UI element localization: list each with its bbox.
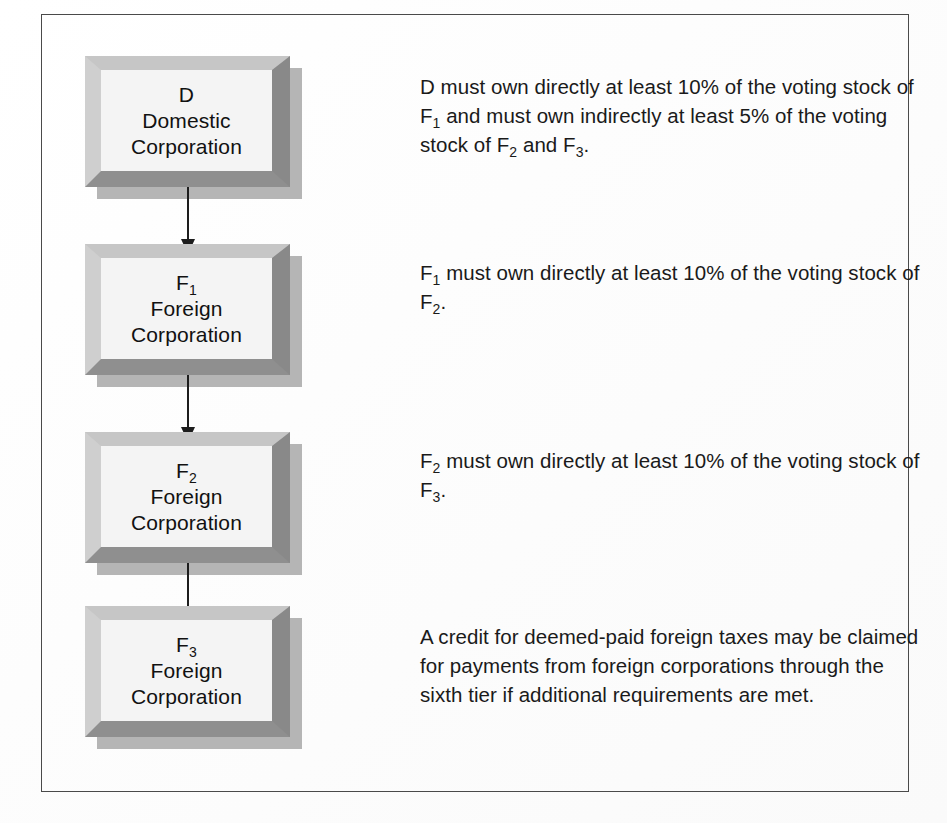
note-subscript: 1 (433, 115, 441, 131)
node-box-f3[interactable]: F3 Foreign Corporation (85, 606, 290, 737)
note-subscript: 2 (433, 460, 441, 476)
node-label-id: F3 (176, 632, 197, 658)
node-face: F2 Foreign Corporation (101, 446, 272, 547)
node-label-id: F2 (176, 458, 197, 484)
note-subscript: 1 (433, 272, 441, 288)
note-text-f3: A credit for deemed-paid foreign taxes m… (420, 622, 925, 709)
arrow-shaft (187, 375, 189, 427)
node-label-line2: Foreign (151, 484, 223, 510)
note-subscript: 2 (433, 301, 441, 317)
note-text-f2: F2 must own directly at least 10% of the… (420, 446, 925, 504)
diagram-frame: D Domestic Corporation F1 Foreign Corpor… (41, 14, 909, 792)
node-bevel: D Domestic Corporation (85, 56, 290, 187)
node-face: D Domestic Corporation (101, 70, 272, 171)
node-bevel: F2 Foreign Corporation (85, 432, 290, 563)
note-text-f1: F1 must own directly at least 10% of the… (420, 258, 925, 316)
node-bevel: F3 Foreign Corporation (85, 606, 290, 737)
node-box-f1[interactable]: F1 Foreign Corporation (85, 244, 290, 375)
note-text-d: D must own directly at least 10% of the … (420, 72, 925, 159)
node-label-line2: Domestic (142, 108, 230, 134)
note-subscript: 3 (576, 144, 584, 160)
node-label-line2: Foreign (151, 658, 223, 684)
node-label-line2: Foreign (151, 296, 223, 322)
node-label-line3: Corporation (131, 684, 242, 710)
node-box-f2[interactable]: F2 Foreign Corporation (85, 432, 290, 563)
node-bevel: F1 Foreign Corporation (85, 244, 290, 375)
note-subscript: 2 (509, 144, 517, 160)
node-label-line3: Corporation (131, 322, 242, 348)
node-label-id: F1 (176, 270, 197, 296)
node-face: F1 Foreign Corporation (101, 258, 272, 359)
node-label-line3: Corporation (131, 510, 242, 536)
node-label-line3: Corporation (131, 134, 242, 160)
node-face: F3 Foreign Corporation (101, 620, 272, 721)
node-label-id: D (179, 82, 194, 108)
note-subscript: 3 (433, 489, 441, 505)
arrow-shaft (187, 187, 189, 239)
node-box-d[interactable]: D Domestic Corporation (85, 56, 290, 187)
